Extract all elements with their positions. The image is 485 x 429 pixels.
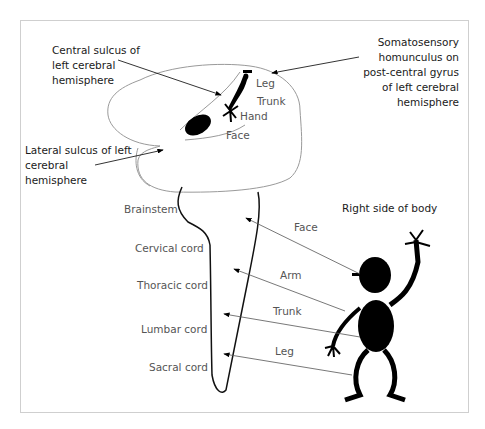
body-label-face: Face [294, 220, 318, 235]
arrow-homunculus [272, 57, 359, 73]
spinal-label-lumbar: Lumbar cord [141, 322, 207, 337]
spinal-label-cervical: Cervical cord [135, 241, 204, 256]
spinal-label-thoracic: Thoracic cord [137, 278, 208, 293]
spinal-label-sacral: Sacral cord [149, 360, 208, 375]
cortex-label-trunk: Trunk [257, 94, 286, 109]
cortex-label-face: Face [226, 128, 250, 143]
cortex-label-hand: Hand [240, 109, 268, 124]
label-lateral-sulcus: Lateral sulcus of left cerebral hemisphe… [25, 143, 132, 188]
label-homunculus: Somatosensory homunculus on post-central… [363, 35, 459, 110]
body-figure [325, 230, 430, 400]
body-label-trunk: Trunk [273, 304, 302, 319]
cortex-label-leg: Leg [256, 76, 275, 91]
label-central-sulcus: Central sulcus of left cerebral hemisphe… [52, 43, 140, 88]
body-title: Right side of body [342, 201, 437, 216]
body-label-leg: Leg [275, 344, 294, 359]
spinal-label-brainstem: Brainstem [124, 202, 178, 217]
body-label-arm: Arm [280, 268, 302, 283]
